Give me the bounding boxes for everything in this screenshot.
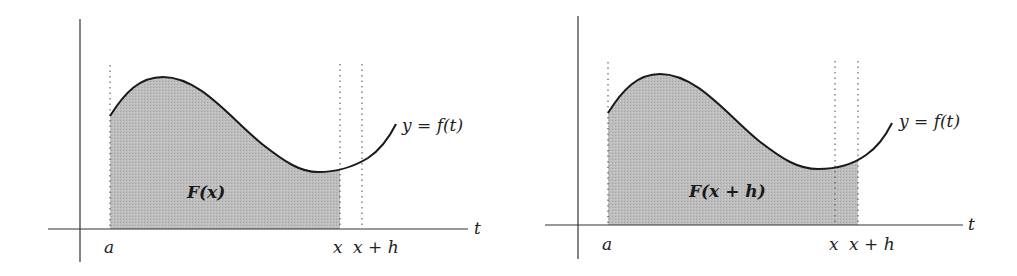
tick-label-x: x	[829, 234, 839, 254]
figure-canvas: t y = f(t) F(x) a x x + h t y = f(t) F(x…	[0, 0, 1017, 276]
area-label: F(x)	[186, 182, 225, 202]
tick-label-a: a	[602, 234, 612, 254]
curve-label: y = f(t)	[401, 115, 463, 135]
area-label: F(x + h)	[688, 181, 766, 201]
curve-label: y = f(t)	[898, 111, 960, 131]
tick-label-x-plus-h: x + h	[849, 234, 895, 254]
tick-label-a: a	[104, 237, 114, 257]
axis-label-t: t	[968, 214, 975, 234]
panel-right: t y = f(t) F(x + h) a x x + h	[545, 16, 975, 259]
tick-label-x: x	[333, 237, 343, 257]
tick-label-x-plus-h: x + h	[353, 237, 399, 257]
axis-label-t: t	[474, 218, 481, 238]
panel-left: t y = f(t) F(x) a x x + h	[48, 19, 481, 262]
shaded-area-F-x-plus-h	[608, 74, 858, 225]
shaded-area-F-x	[110, 77, 340, 229]
